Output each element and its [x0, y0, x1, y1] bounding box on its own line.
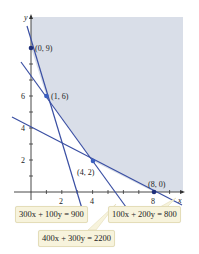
y-tick-label: 2: [21, 156, 25, 165]
y-axis-label: y: [23, 13, 28, 22]
point-label-1-6: (1, 6): [51, 92, 69, 101]
y-tick-label: 4: [21, 124, 25, 133]
x-tick-label: 2: [59, 197, 63, 206]
point-label-8-0: (8, 0): [148, 180, 166, 189]
x-tick-label: 8: [151, 197, 155, 206]
point-label-0-9: (0, 9): [35, 44, 53, 53]
x-tick-label: 4: [90, 197, 94, 206]
point-8-0: [152, 190, 157, 195]
point-4-2: [91, 159, 96, 164]
y-tick-label: 6: [21, 92, 25, 101]
y-axis-arrow-icon: [29, 14, 33, 19]
point-label-4-2: (4, 2): [77, 168, 95, 177]
point-0-9: [29, 46, 34, 51]
equation-label-400x-300y-2200: 400x + 300y = 2200: [38, 230, 115, 247]
equation-label-300x-100y-900: 300x + 100y = 900: [15, 206, 88, 223]
point-1-6: [44, 94, 49, 99]
equation-label-100x-200y-800: 100x + 200y = 800: [108, 206, 181, 223]
